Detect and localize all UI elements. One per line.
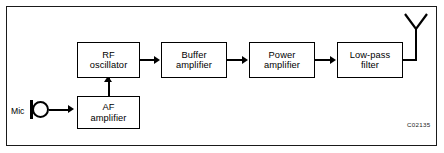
arrow-power-to-lpf: [330, 56, 336, 64]
block-power-amplifier-line1: Power: [264, 50, 300, 60]
block-low-pass-filter-line2: filter: [350, 60, 391, 70]
wire-mic-to-af: [49, 109, 70, 111]
block-af-amplifier: AF amplifier: [77, 96, 140, 129]
block-power-amplifier-line2: amplifier: [264, 60, 300, 70]
figure-caption-code: C02135: [407, 121, 430, 128]
block-rf-oscillator-line2: oscillator: [90, 60, 128, 70]
arrow-buffer-to-power: [242, 56, 248, 64]
block-low-pass-filter-line1: Low-pass: [350, 50, 391, 60]
block-low-pass-filter: Low-pass filter: [337, 42, 403, 78]
antenna-icon: [401, 12, 431, 34]
block-buffer-amplifier: Buffer amplifier: [161, 42, 227, 78]
transmitter-block-diagram-figure: Mic AF amplifier RF oscillator Buffer am…: [0, 0, 444, 153]
microphone-diaphragm-icon: [32, 101, 49, 118]
mic-label: Mic: [11, 106, 24, 116]
block-af-amplifier-line1: AF: [90, 102, 126, 112]
block-rf-oscillator-line1: RF: [90, 50, 128, 60]
block-buffer-amplifier-line1: Buffer: [176, 50, 212, 60]
arrow-rf-to-buffer: [154, 56, 160, 64]
block-power-amplifier: Power amplifier: [249, 42, 315, 78]
block-buffer-amplifier-line2: amplifier: [176, 60, 212, 70]
arrow-mic-to-af: [68, 105, 74, 113]
block-rf-oscillator: RF oscillator: [77, 42, 140, 78]
block-af-amplifier-line2: amplifier: [90, 113, 126, 123]
